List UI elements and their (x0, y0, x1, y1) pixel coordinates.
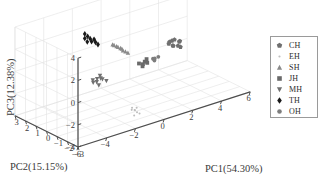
legend-item-th[interactable]: TH (271, 95, 317, 106)
data-point-jh (137, 62, 141, 66)
data-point-eh (136, 111, 138, 113)
triangle-down-icon (275, 85, 284, 94)
pentagon (277, 43, 282, 48)
legend-item-mh[interactable]: MH (271, 84, 317, 95)
legend-item-label: EH (289, 52, 300, 61)
triangle-up (277, 65, 282, 70)
dot-icon (275, 52, 284, 61)
dot (278, 55, 280, 57)
series-th (83, 31, 100, 47)
circle-icon (275, 107, 284, 116)
data-point-oh (156, 55, 160, 59)
legend-item-label: JH (289, 74, 298, 83)
legend-item-oh[interactable]: OH (271, 106, 317, 117)
data-point-ch (172, 37, 177, 41)
axis-tick-label: 4 (218, 103, 223, 113)
data-point-oh (153, 59, 157, 63)
legend-item-label: MH (289, 85, 302, 94)
data-point-eh (134, 109, 136, 111)
legend-item-sh[interactable]: SH (271, 62, 317, 73)
axis-tick-label: 2 (189, 112, 193, 122)
data-point-eh (133, 114, 135, 116)
axis-tick-label: −1 (54, 138, 63, 148)
legend-item-jh[interactable]: JH (271, 73, 317, 84)
triangle-up-icon (275, 63, 284, 72)
axis-tick-label: −2 (129, 130, 138, 140)
tick-label-layer: 420−2−43210−1−2−3−6−4−20246 (14, 53, 250, 158)
data-point-jh (145, 57, 149, 61)
y-axis-label: PC2(15.15%) (10, 161, 68, 173)
data-point-eh (136, 107, 138, 109)
series-mh (91, 74, 109, 88)
triangle-down (277, 87, 282, 92)
legend-item-label: OH (289, 107, 301, 116)
diamond-filled-icon (275, 96, 284, 105)
axis-tick-label: 4 (71, 53, 76, 63)
axis-tick-label: 2 (25, 123, 29, 133)
data-point-mh (97, 83, 101, 87)
square-icon (275, 74, 284, 83)
data-point-eh (131, 109, 133, 111)
pca-3d-scatter-plot: 420−2−43210−1−2−3−6−4−20246 PC3(12.38%) … (0, 0, 329, 186)
data-point-eh (131, 107, 133, 109)
axis-tick-label: −2 (66, 120, 75, 130)
series-sh (110, 42, 130, 55)
legend-box: CHEHSHJHMHTHOH (270, 36, 318, 118)
series-ch (167, 37, 183, 49)
axis-tick-label: 6 (247, 93, 251, 103)
series-oh (151, 55, 160, 63)
data-point-th (85, 39, 89, 45)
data-point-jh (145, 61, 149, 65)
z-axis-label: PC3(12.38%) (5, 58, 17, 116)
axis-tick-label: 2 (71, 75, 75, 85)
data-point-eh (139, 113, 141, 115)
circle (277, 109, 282, 114)
legend-item-label: CH (289, 41, 301, 50)
axis-tick-label: −6 (72, 149, 81, 159)
data-point-mh (104, 79, 108, 83)
grid-layer (15, 0, 250, 147)
diamond-filled (277, 97, 282, 104)
legend-item-label: SH (289, 63, 300, 72)
x-axis-label: PC1(54.30%) (205, 163, 263, 175)
legend-item-ch[interactable]: CH (271, 40, 317, 51)
square (277, 76, 282, 81)
axis-tick-label: −4 (101, 139, 111, 149)
legend-item-eh[interactable]: EH (271, 51, 317, 62)
series-jh (137, 57, 149, 68)
axis-tick-label: 0 (46, 133, 50, 143)
axis-tick-label: 3 (14, 117, 18, 127)
axis-tick-label: 0 (160, 121, 164, 131)
axis-tick-label: 0 (71, 98, 75, 108)
pentagon-icon (275, 41, 284, 50)
data-point-jh (141, 64, 145, 68)
legend-item-label: TH (289, 96, 300, 105)
axis-tick-label: 1 (35, 128, 39, 138)
